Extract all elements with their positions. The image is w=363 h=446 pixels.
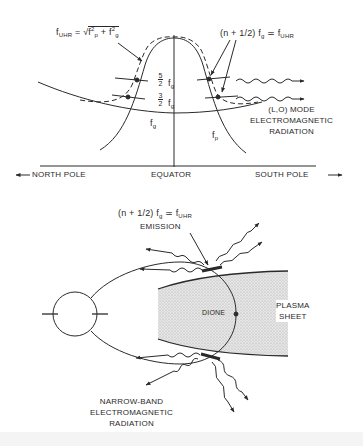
fp-curve	[100, 38, 246, 153]
dione-dot	[234, 312, 238, 316]
fuhr-formula-label: fUHR = √f2p + f2g	[56, 26, 119, 38]
harmonic-5-2-fg: fg	[168, 78, 174, 89]
lo-mode-radiation-label: (L,O) MODE ELECTROMAGNETIC RADIATION	[250, 104, 333, 137]
harmonic-5-2-fraction: 52	[158, 72, 163, 87]
fg-curve	[38, 82, 262, 113]
magnetosphere-panel	[42, 223, 288, 412]
narrow-band-radiation-label: NARROW-BAND ELECTROMAGNETIC RADIATION	[90, 396, 173, 429]
diagram-canvas	[0, 0, 363, 446]
saturn-circle	[53, 292, 97, 336]
north-pole-label: NORTH POLE	[32, 170, 86, 179]
page-footer-band	[0, 432, 363, 446]
plasma-sheet-label: PLASMA SHEET	[276, 300, 310, 322]
radiation-wave-lower	[236, 97, 304, 101]
emission-formula-label: (n + 1/2) fg ≃ fUHR	[118, 208, 192, 219]
harmonic-condition-label: (n + 1/2) fg ≃ fUHR	[220, 28, 294, 39]
south-pole-label: SOUTH POLE	[255, 170, 309, 179]
harmonic-3-2-fraction: 32	[158, 92, 163, 107]
fuhr-curve	[80, 37, 258, 104]
emission-label: EMISSION	[140, 222, 181, 231]
radiation-wave-upper	[236, 79, 304, 83]
dione-label: DIONE	[202, 309, 225, 316]
fp-curve-label: fp	[212, 130, 218, 141]
equator-label: EQUATOR	[151, 170, 191, 179]
fg-curve-label: fg	[150, 118, 156, 129]
harmonic-3-2-fg: fg	[168, 98, 174, 109]
